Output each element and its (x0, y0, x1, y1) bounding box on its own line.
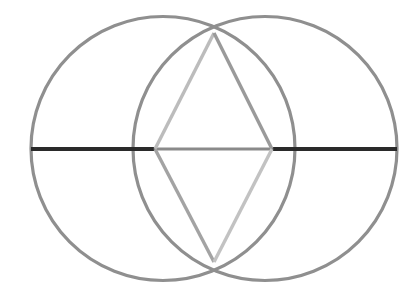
figure-canvas (0, 0, 420, 291)
geometry-figure (0, 0, 420, 291)
